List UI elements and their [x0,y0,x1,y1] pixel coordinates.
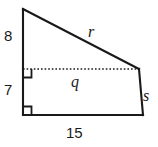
geometry-figure: 8 7 15 r q s [0,0,158,147]
label-right-side-s: s [143,88,149,104]
label-base-15: 15 [66,125,83,140]
label-hypotenuse-r: r [88,24,94,40]
label-divider-q: q [71,74,79,90]
right-angle-mark-bottom-left [23,107,32,116]
label-left-lower-7: 7 [4,82,12,97]
label-left-upper-8: 8 [4,28,12,43]
side-hypotenuse [23,9,139,69]
right-angle-mark-divider [23,69,32,78]
